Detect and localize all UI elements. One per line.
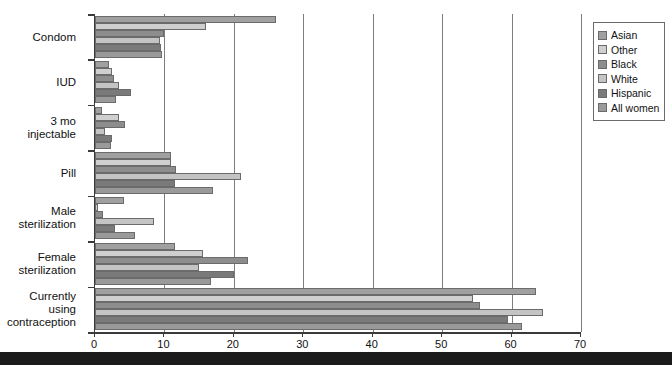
bar <box>95 187 213 194</box>
gridline-40 <box>373 14 374 332</box>
legend-swatch-icon <box>598 103 607 112</box>
bar <box>95 114 119 121</box>
x-tick-10 <box>163 332 164 337</box>
gridline-30 <box>303 14 304 332</box>
x-tick-label-0: 0 <box>91 338 97 350</box>
x-tick-50 <box>441 332 442 337</box>
bar <box>95 243 175 250</box>
legend-label: Asian <box>611 29 637 41</box>
x-tick-20 <box>233 332 234 337</box>
x-tick-70 <box>580 332 581 337</box>
legend-item-other[interactable]: Other <box>598 43 661 56</box>
category-label: Pill <box>61 167 76 180</box>
bar <box>95 75 114 82</box>
y-tick-3 <box>88 196 94 198</box>
category-label: IUD <box>56 76 76 89</box>
bottom-band <box>0 352 672 365</box>
legend-label: White <box>611 73 638 85</box>
bar <box>95 23 206 30</box>
bar <box>95 142 111 149</box>
bar <box>95 232 135 239</box>
bar <box>95 16 276 23</box>
x-tick-30 <box>302 332 303 337</box>
bar <box>95 323 522 330</box>
plot-area <box>94 14 580 332</box>
y-tick-top <box>88 14 94 16</box>
legend-item-hispanic[interactable]: Hispanic <box>598 87 661 100</box>
bar <box>95 211 103 218</box>
bar <box>95 264 199 271</box>
legend-swatch-icon <box>598 60 607 69</box>
x-tick-label-10: 10 <box>157 338 169 350</box>
category-label: Female sterilization <box>18 251 76 277</box>
bar <box>95 278 211 285</box>
bar <box>95 250 203 257</box>
bar <box>95 30 164 37</box>
bar <box>95 152 171 159</box>
bar <box>95 309 543 316</box>
y-tick-0 <box>88 59 94 61</box>
bar <box>95 96 116 103</box>
bar <box>95 316 508 323</box>
bar <box>95 166 176 173</box>
category-label: Condom <box>33 30 76 43</box>
legend-label: All women <box>611 102 659 114</box>
bar <box>95 61 109 68</box>
bar <box>95 218 154 225</box>
x-tick-label-30: 30 <box>296 338 308 350</box>
x-tick-40 <box>372 332 373 337</box>
bar <box>95 37 160 44</box>
x-tick-label-60: 60 <box>504 338 516 350</box>
x-tick-label-20: 20 <box>227 338 239 350</box>
bar <box>95 51 162 58</box>
bar <box>95 135 112 142</box>
bar <box>95 44 161 51</box>
x-axis-line <box>94 332 581 334</box>
bar <box>95 82 119 89</box>
legend-item-asian[interactable]: Asian <box>598 29 661 42</box>
bar <box>95 173 241 180</box>
category-label: 3 mo injectable <box>0 115 76 141</box>
bar <box>95 197 124 204</box>
legend-item-white[interactable]: White <box>598 72 661 85</box>
x-tick-label-50: 50 <box>435 338 447 350</box>
y-tick-2 <box>88 150 94 152</box>
legend-label: Hispanic <box>611 87 651 99</box>
bar <box>95 204 98 211</box>
x-tick-60 <box>511 332 512 337</box>
x-tick-label-40: 40 <box>366 338 378 350</box>
category-label: Male sterilization <box>18 205 76 231</box>
bar <box>95 180 175 187</box>
bar <box>95 288 536 295</box>
gridline-60 <box>512 14 513 332</box>
bar <box>95 159 171 166</box>
chart-legend: AsianOtherBlackWhiteHispanicAll women <box>593 22 665 121</box>
gridline-50 <box>442 14 443 332</box>
bar <box>95 295 473 302</box>
top-margin <box>0 0 672 4</box>
y-tick-4 <box>88 241 94 243</box>
x-tick-label-70: 70 <box>574 338 586 350</box>
legend-swatch-icon <box>598 89 607 98</box>
bar <box>95 271 234 278</box>
bar <box>95 89 131 96</box>
legend-label: Black <box>611 58 637 70</box>
bar <box>95 302 480 309</box>
bar <box>95 68 112 75</box>
category-label: Currently using contraception <box>0 290 76 329</box>
y-tick-1 <box>88 105 94 107</box>
legend-swatch-icon <box>598 31 607 40</box>
legend-swatch-icon <box>598 74 607 83</box>
y-tick-5 <box>88 287 94 289</box>
legend-label: Other <box>611 44 637 56</box>
bar <box>95 107 102 114</box>
bar <box>95 225 115 232</box>
legend-item-all-women[interactable]: All women <box>598 101 661 114</box>
x-tick-0 <box>94 332 95 337</box>
bar <box>95 257 248 264</box>
legend-item-black[interactable]: Black <box>598 58 661 71</box>
bar <box>95 121 125 128</box>
bar <box>95 128 105 135</box>
legend-swatch-icon <box>598 45 607 54</box>
bar-chart: CondomIUD3 mo injectablePillMale sterili… <box>0 0 672 365</box>
